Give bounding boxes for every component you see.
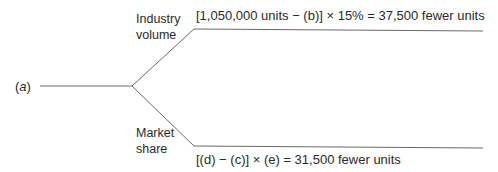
tree-lines xyxy=(0,0,498,172)
root-paren-close: ) xyxy=(27,79,31,94)
lower-branch-horizontal xyxy=(194,146,483,148)
upper-branch-horizontal xyxy=(194,29,483,31)
root-node-label: (a) xyxy=(15,79,31,94)
root-variable: a xyxy=(19,79,26,94)
industry-volume-formula: [1,050,000 units − (b)] × 15% = 37,500 f… xyxy=(196,8,485,23)
market-share-label: Market share xyxy=(136,125,196,157)
industry-volume-label: Industry volume xyxy=(136,11,196,43)
market-share-formula: [(d) − (c)] × (e) = 31,500 fewer units xyxy=(196,152,401,167)
